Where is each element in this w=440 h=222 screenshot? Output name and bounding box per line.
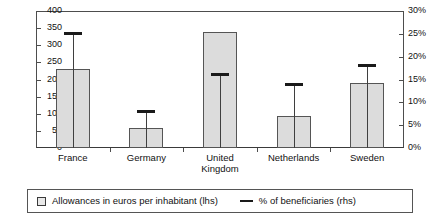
left-axis-tick-label: 350 [28, 23, 62, 32]
right-axis-tick [399, 125, 404, 126]
left-axis-tick [36, 28, 41, 29]
marker-cap-5 [358, 64, 376, 67]
right-axis-tick-label: 10% [408, 97, 440, 106]
marker-stem-5 [367, 66, 368, 148]
legend-label-beneficiaries: % of beneficiaries (rhs) [259, 196, 356, 206]
category-label-5: Sweden [324, 152, 410, 163]
marker-cap-4 [285, 83, 303, 86]
legend-item-beneficiaries: % of beneficiaries (rhs) [240, 196, 356, 206]
marker-stem-1 [73, 34, 74, 148]
marker-stem-4 [294, 84, 295, 148]
left-axis-tick [36, 131, 41, 132]
left-axis-tick [36, 80, 41, 81]
right-axis-tick [399, 80, 404, 81]
right-axis-tick [399, 34, 404, 35]
left-axis-tick [36, 114, 41, 115]
left-axis-tick [36, 62, 41, 63]
chart-canvas: 050100150200250300350400 0%5%10%15%20%25… [0, 0, 440, 185]
square-icon [37, 197, 46, 206]
left-axis-tick-label: 250 [28, 57, 62, 66]
right-axis-tick-label: 5% [408, 120, 440, 129]
left-axis-tick [36, 97, 41, 98]
right-axis-tick-label: 20% [408, 52, 440, 61]
marker-stem-3 [220, 75, 221, 148]
left-axis-tick [36, 45, 41, 46]
legend-item-allowances: Allowances in euros per inhabitant (lhs) [37, 196, 218, 206]
right-axis-tick [399, 102, 404, 103]
chart-legend: Allowances in euros per inhabitant (lhs)… [27, 189, 413, 213]
right-axis-tick-label: 15% [408, 75, 440, 84]
legend-label-allowances: Allowances in euros per inhabitant (lhs) [52, 196, 218, 206]
left-axis-tick-label: 300 [28, 40, 62, 49]
marker-cap-1 [64, 32, 82, 35]
right-axis-tick [399, 57, 404, 58]
right-axis-tick-label: 30% [408, 6, 440, 15]
marker-cap-2 [137, 110, 155, 113]
marker-stem-2 [146, 111, 147, 148]
right-axis-tick-label: 0% [408, 143, 440, 152]
marker-cap-3 [211, 73, 229, 76]
right-axis-tick-label: 25% [408, 29, 440, 38]
left-axis-tick-label: 400 [28, 6, 62, 15]
dash-icon [240, 200, 253, 203]
chart-figure: 050100150200250300350400 0%5%10%15%20%25… [0, 0, 440, 222]
